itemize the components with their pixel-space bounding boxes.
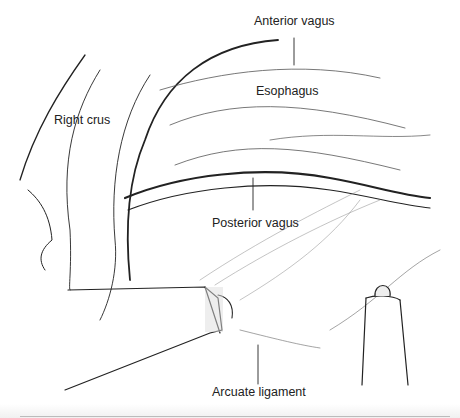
line-drawing bbox=[0, 0, 460, 418]
surgical-illustration: Anterior vagus Esophagus Right crus Post… bbox=[0, 0, 460, 418]
label-anterior-vagus: Anterior vagus bbox=[254, 14, 335, 28]
bottom-rule bbox=[20, 416, 450, 417]
label-esophagus: Esophagus bbox=[256, 84, 319, 98]
label-arcuate-ligament: Arcuate ligament bbox=[212, 385, 306, 399]
label-posterior-vagus: Posterior vagus bbox=[212, 216, 299, 230]
label-right-crus: Right crus bbox=[54, 113, 110, 127]
